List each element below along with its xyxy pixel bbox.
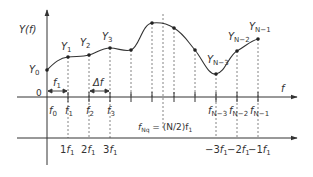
tick-f0: f0 [49, 105, 57, 118]
sample-point [193, 48, 197, 52]
y-axis-label: Y(f) [19, 24, 36, 35]
sample-point-y1 [66, 55, 70, 59]
tick-fn-3: fN−3 [208, 105, 227, 118]
sample-points [45, 21, 260, 76]
tick-3f1: 3f1 [103, 144, 117, 157]
tick-f2: f2 [86, 105, 94, 118]
tick-f3: f3 [107, 105, 115, 118]
label-y2: Y2 [80, 37, 91, 50]
tick-neg3f1: −3f1 [205, 144, 228, 157]
label-yn-1: YN−1 [249, 21, 271, 34]
lower-tick-labels: 1f1 2f1 3f1 −3f1 −2f1 −1f1 [60, 144, 271, 157]
sample-point [129, 48, 133, 52]
sample-labels: Y0 Y1 Y2 Y3 YN−3 YN−2 YN−1 [29, 21, 271, 77]
label-y0: Y0 [29, 64, 40, 77]
dft-frequency-diagram: Y(f) f 0 f1 Δf Y0 Y1 Y2 Y3 YN−3 YN−2 YN−… [0, 0, 313, 177]
sample-point-y3 [108, 46, 112, 50]
label-yn-3: YN−3 [207, 54, 229, 67]
sample-point-yn-3 [214, 72, 218, 76]
tick-2f1: 2f1 [81, 144, 95, 157]
sample-point-y0 [45, 68, 49, 72]
sample-point [150, 21, 154, 25]
sample-point-yn-2 [235, 49, 239, 53]
origin-label: 0 [36, 88, 42, 98]
delta-f-label: Δf [92, 77, 105, 88]
nyquist-label: fNq = (N/2)f1 [138, 122, 192, 134]
tick-1f1: 1f1 [60, 144, 74, 157]
tick-fn-2: fN−2 [229, 105, 248, 118]
sample-point-y2 [87, 53, 91, 57]
tick-neg1f1: −1f1 [248, 144, 271, 157]
label-yn-2: YN−2 [228, 31, 250, 44]
f1-interval-label: f1 [53, 77, 61, 90]
sample-point-yn-1 [256, 37, 260, 41]
tick-neg2f1: −2f1 [227, 144, 250, 157]
label-y3: Y3 [102, 31, 113, 44]
upper-axis-label: f [281, 83, 286, 94]
tick-f1: f1 [65, 105, 73, 118]
upper-tick-labels: f0 f1 f2 f3 fN−3 fN−2 fN−1 [49, 105, 269, 118]
label-y1: Y1 [61, 41, 72, 54]
sample-point [172, 26, 176, 30]
tick-fn-1: fN−1 [250, 105, 269, 118]
